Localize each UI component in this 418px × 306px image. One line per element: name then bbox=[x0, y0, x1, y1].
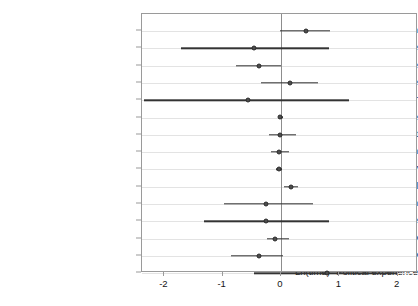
x-axis-tick-label: 0 bbox=[265, 278, 295, 289]
confidence-interval-bar bbox=[269, 134, 296, 135]
estimate-point bbox=[277, 150, 282, 155]
coefficient-row bbox=[142, 40, 416, 57]
estimate-point bbox=[277, 167, 282, 172]
confidence-interval-bar bbox=[224, 203, 313, 204]
estimate-point bbox=[288, 184, 293, 189]
estimate-point bbox=[263, 219, 268, 224]
coefficient-row bbox=[142, 57, 416, 74]
coefficient-row bbox=[142, 213, 416, 230]
coefficient-row bbox=[142, 74, 416, 91]
x-axis-tick-mark bbox=[338, 272, 339, 276]
x-axis-tick-label: -2 bbox=[148, 278, 178, 289]
coefficient-row bbox=[142, 143, 416, 160]
coefficient-plot-figure: Previous termPolitical experienceDiploma… bbox=[0, 0, 418, 306]
coefficient-row bbox=[142, 178, 416, 195]
estimate-point bbox=[304, 28, 309, 33]
x-axis-tick-label: -1 bbox=[207, 278, 237, 289]
x-axis-tick-label: 2 bbox=[382, 278, 412, 289]
coefficient-row bbox=[142, 230, 416, 247]
estimate-point bbox=[252, 46, 257, 51]
x-axis-tick-mark bbox=[280, 272, 281, 276]
coefficient-row bbox=[142, 22, 416, 39]
plot-panel bbox=[141, 13, 417, 272]
x-axis-tick-mark bbox=[397, 272, 398, 276]
coefficient-row bbox=[142, 126, 416, 143]
estimate-point bbox=[245, 98, 250, 103]
x-axis-tick-mark bbox=[163, 272, 164, 276]
estimate-point bbox=[278, 115, 283, 120]
coefficient-row bbox=[142, 161, 416, 178]
coefficient-row bbox=[142, 247, 416, 264]
estimate-point bbox=[256, 253, 261, 258]
coefficient-row bbox=[142, 92, 416, 109]
coefficient-row bbox=[142, 109, 416, 126]
estimate-point bbox=[256, 63, 261, 68]
estimate-point bbox=[325, 271, 330, 276]
confidence-interval-bar bbox=[267, 238, 289, 239]
estimate-point bbox=[288, 80, 293, 85]
coefficient-row bbox=[142, 195, 416, 212]
estimate-point bbox=[263, 201, 268, 206]
x-axis-tick-mark bbox=[222, 272, 223, 276]
estimate-point bbox=[277, 132, 282, 137]
estimate-point bbox=[273, 236, 278, 241]
x-axis-tick-label: 1 bbox=[323, 278, 353, 289]
